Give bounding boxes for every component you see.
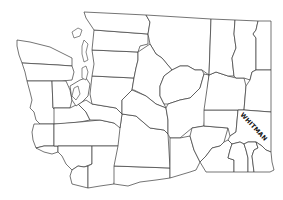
county-pacific [32, 124, 54, 148]
county-island [82, 40, 88, 62]
county-snohomish [92, 50, 138, 78]
county-jefferson [22, 63, 74, 81]
county-ferry [209, 19, 236, 76]
county-san-juan [72, 28, 82, 38]
counties-layer [17, 12, 274, 188]
county-klickitat [114, 166, 170, 186]
county-clark [70, 166, 88, 188]
county-mason [52, 81, 72, 108]
puget-sound-inlet [82, 66, 88, 80]
county-lewis [54, 120, 122, 146]
county-wahkiakum [36, 146, 58, 154]
county-clallam [17, 40, 72, 66]
washington-county-map: WHITMAN [0, 0, 283, 200]
